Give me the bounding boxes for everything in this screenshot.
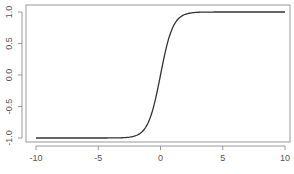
data-line-tanh xyxy=(36,12,285,138)
x-tick-label: 0 xyxy=(158,153,163,163)
y-axis: -1.0-0.50.00.51.0 xyxy=(4,6,22,146)
x-tick-label: 5 xyxy=(220,153,225,163)
y-tick-label: -1.0 xyxy=(4,130,14,146)
line-chart: -10-50510 -1.0-0.50.00.51.0 xyxy=(0,0,294,174)
y-tick-label: 1.0 xyxy=(4,6,14,19)
x-tick-label: -10 xyxy=(29,153,42,163)
x-tick-label: -5 xyxy=(94,153,102,163)
x-tick-label: 10 xyxy=(280,153,290,163)
plot-box xyxy=(26,5,290,142)
x-axis: -10-50510 xyxy=(29,146,290,163)
y-tick-label: 0.5 xyxy=(4,37,14,50)
y-tick-label: -0.5 xyxy=(4,99,14,115)
y-tick-label: 0.0 xyxy=(4,69,14,82)
